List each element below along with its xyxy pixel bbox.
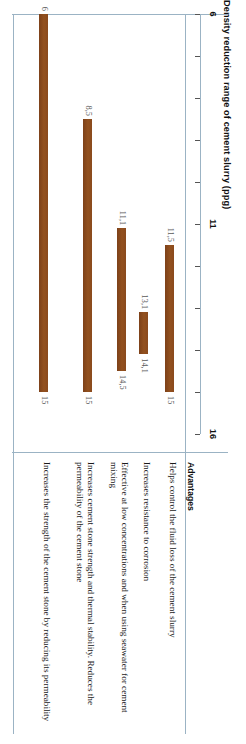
advantage-text: Increases the strength of the cement sto… [41, 462, 52, 730]
range-bar [39, 14, 48, 392]
x-tick [195, 98, 200, 99]
range-bar [139, 312, 148, 354]
column-header-advantages: Advantages [186, 462, 196, 511]
x-tick [195, 182, 200, 183]
range-high-label: 15 [166, 396, 175, 404]
range-low-label: 13,1 [140, 295, 149, 310]
x-tick [195, 392, 200, 393]
range-bar [117, 228, 126, 371]
range-bar [165, 245, 174, 392]
range-low-label: 6 [40, 7, 49, 11]
extender-comparison-figure: Density reduction range of cement slurry… [0, 0, 246, 744]
advantage-text: Helps control the fluid loss of the ceme… [167, 462, 178, 730]
rotated-page-wrapper: Density reduction range of cement slurry… [0, 0, 246, 744]
header-rule [185, 14, 186, 734]
x-tick [195, 350, 200, 351]
x-tick [195, 308, 200, 309]
advantage-text: Increases resistance to corrosion [141, 462, 152, 730]
x-tick [195, 14, 200, 15]
chart-title: Density reduction range of cement slurry… [222, 0, 232, 300]
x-tick-label: 11 [208, 219, 218, 229]
x-tick-label: 16 [208, 429, 218, 439]
x-tick [195, 266, 200, 267]
bottom-rule [13, 14, 14, 734]
advantage-text: Increases cement stone strength and ther… [73, 462, 96, 730]
x-tick-label: 6 [208, 11, 218, 16]
x-axis-line [200, 14, 201, 434]
range-low-label: 8,5 [84, 106, 93, 116]
range-bar [83, 119, 92, 392]
range-low-label: 11,5 [166, 228, 175, 242]
range-low-label: 11,1 [118, 211, 127, 225]
range-high-label: 14,1 [140, 358, 149, 373]
figure-canvas: Density reduction range of cement slurry… [0, 0, 246, 744]
x-tick [195, 434, 200, 435]
range-high-label: 15 [40, 396, 49, 404]
x-tick [195, 224, 200, 225]
x-tick [195, 140, 200, 141]
range-high-label: 14,5 [118, 375, 127, 390]
x-tick [195, 56, 200, 57]
advantages-column-separator [12, 452, 228, 453]
range-high-label: 15 [84, 396, 93, 404]
advantage-text: Effective at low concentrations and when… [107, 462, 130, 730]
